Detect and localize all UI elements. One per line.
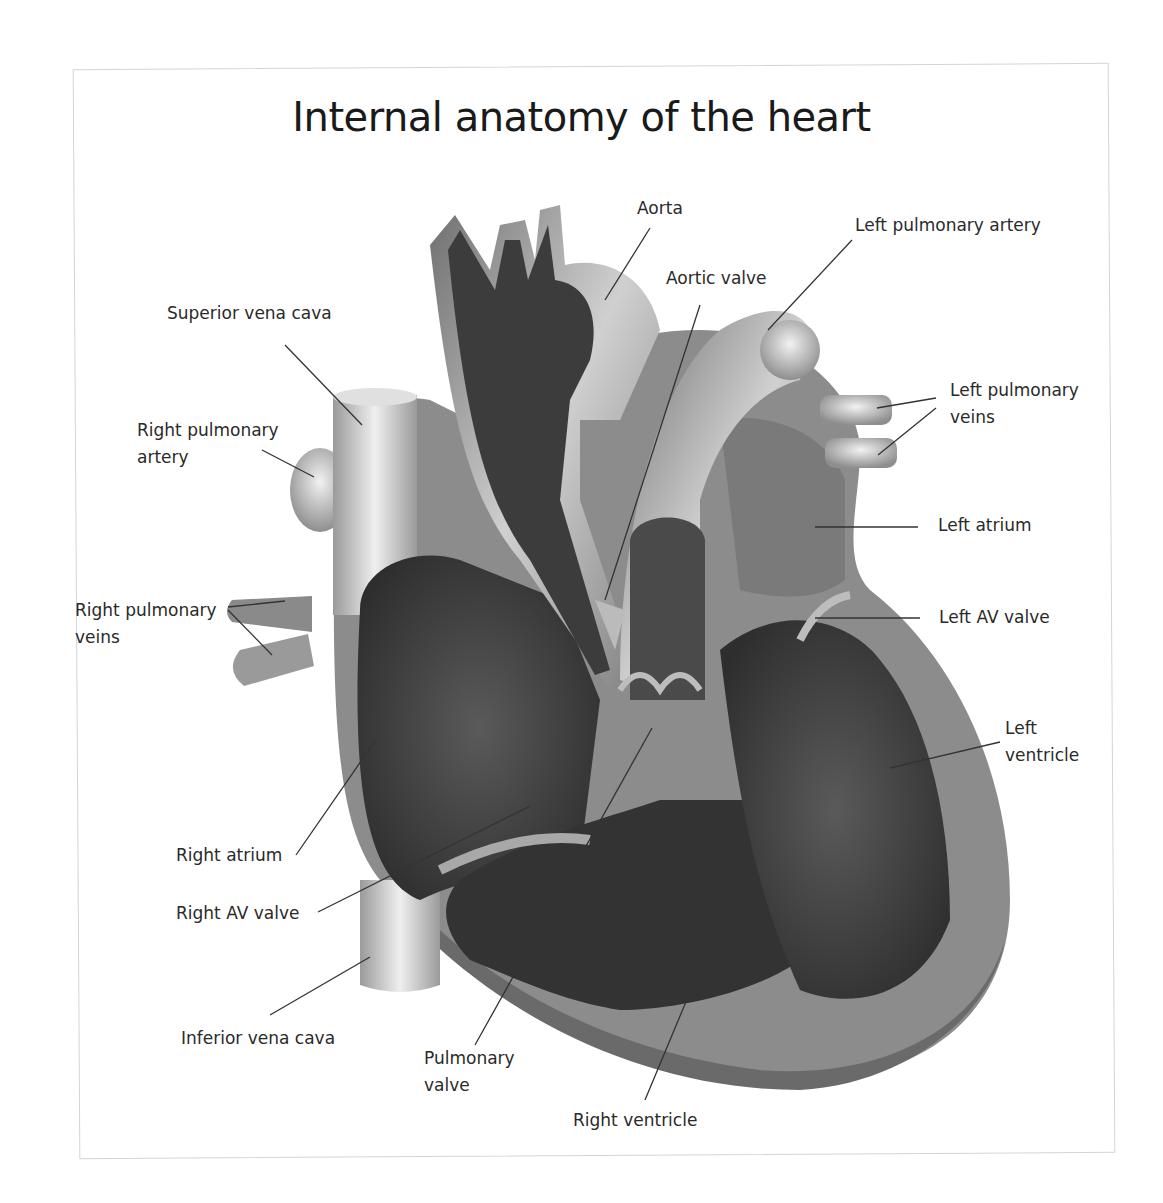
right-pulmonary-veins-shape bbox=[227, 596, 314, 686]
label-right-ventricle: Right ventricle bbox=[573, 1107, 697, 1134]
label-left-ventricle: Left ventricle bbox=[1005, 715, 1079, 769]
label-superior-vena-cava: Superior vena cava bbox=[167, 300, 332, 327]
label-right-pulmonary-artery: Right pulmonary artery bbox=[137, 417, 279, 471]
label-right-av-valve: Right AV valve bbox=[176, 900, 299, 927]
label-right-pulmonary-veins: Right pulmonary veins bbox=[75, 597, 217, 651]
inferior-vena-cava-shape bbox=[360, 880, 440, 992]
label-inferior-vena-cava: Inferior vena cava bbox=[181, 1025, 335, 1052]
label-left-av-valve: Left AV valve bbox=[939, 604, 1050, 631]
label-aortic-valve: Aortic valve bbox=[666, 265, 767, 292]
label-left-pulmonary-artery: Left pulmonary artery bbox=[855, 212, 1041, 239]
label-left-pulmonary-veins: Left pulmonary veins bbox=[950, 377, 1079, 431]
label-pulmonary-valve: Pulmonary valve bbox=[424, 1045, 515, 1099]
label-aorta: Aorta bbox=[637, 195, 683, 222]
label-left-atrium: Left atrium bbox=[938, 512, 1032, 539]
label-right-atrium: Right atrium bbox=[176, 842, 282, 869]
